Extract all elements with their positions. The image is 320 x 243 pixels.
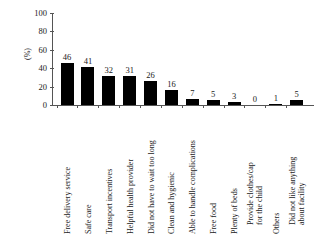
y-tick-mark [50, 68, 54, 69]
bar [207, 100, 220, 105]
bar-value-label: 16 [157, 80, 185, 89]
y-tick-label: 60 [39, 46, 48, 55]
bar [144, 81, 157, 105]
bar [165, 90, 178, 105]
y-tick-mark [50, 31, 54, 32]
y-tick-mark [50, 50, 54, 51]
x-tick-label: Helpful health provider [125, 159, 134, 234]
x-label-slot: Provide clothes/capfor the child [244, 106, 265, 243]
y-axis-title: (%) [18, 34, 38, 74]
bar [290, 100, 303, 105]
x-tick-label: Did not like anythingabout facility [288, 157, 306, 225]
x-label-slot: Did not like anythingabout facility [286, 106, 307, 243]
x-label-slot: Clean and hygienic [161, 106, 182, 243]
y-tick-label: 0 [43, 101, 47, 110]
x-tick-label: Safe care [83, 204, 92, 234]
bar [123, 76, 136, 105]
y-tick-mark [50, 87, 54, 88]
x-tick-label: Others [271, 213, 280, 234]
bar [269, 104, 282, 105]
bar [61, 63, 74, 105]
y-tick-label: 40 [39, 64, 48, 73]
x-label-slot: Others [265, 106, 286, 243]
y-tick-mark [50, 13, 54, 14]
x-label-slot: Helpful health provider [119, 106, 140, 243]
bar-value-label: 41 [74, 57, 102, 66]
bar [228, 102, 241, 105]
x-tick-label: Plenty of beds [230, 188, 239, 234]
y-tick-label: 20 [39, 82, 48, 91]
bar-value-label: 5 [283, 90, 311, 99]
bar-chart-figure: (%) 020406080100 464132312616753015 Free… [0, 0, 320, 243]
x-label-slot: Free food [203, 106, 224, 243]
x-label-slot: Did not have to wait too long [140, 106, 161, 243]
x-label-slot: Plenty of beds [224, 106, 245, 243]
plot-area: 020406080100 464132312616753015 [52, 13, 314, 105]
x-tick-label: Did not have to wait too long [146, 140, 155, 234]
bar [102, 76, 115, 105]
x-tick-label: Clean and hygienic [167, 172, 176, 234]
x-tick-label: Transport incentives [104, 169, 113, 234]
x-label-slot: Transport incentives [98, 106, 119, 243]
bar-value-label: 26 [137, 71, 165, 80]
x-label-slot: Able to handle complications [182, 106, 203, 243]
x-axis-labels: Free delivery serviceSafe careTransport … [52, 106, 314, 243]
x-label-slot: Free delivery service [57, 106, 78, 243]
x-tick-label: Free delivery service [63, 167, 72, 234]
bar [81, 67, 94, 105]
x-tick-label: Able to handle complications [188, 140, 197, 234]
bar [186, 99, 199, 105]
y-tick-label: 80 [39, 27, 48, 36]
y-tick-label: 100 [34, 9, 47, 18]
x-tick-label: Provide clothes/capfor the child [246, 162, 264, 225]
x-label-slot: Safe care [77, 106, 98, 243]
x-tick-label: Free food [209, 203, 218, 234]
